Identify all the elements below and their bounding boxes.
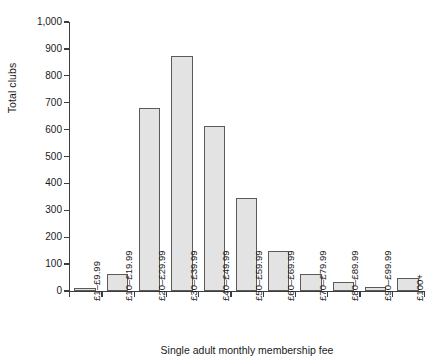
- x-axis-tick-label: £100+: [413, 217, 426, 301]
- y-axis-tick-label: 1,000: [2, 17, 62, 27]
- x-axis-tick: [166, 292, 167, 297]
- x-axis-tick: [263, 292, 264, 297]
- x-axis-tick: [424, 292, 425, 297]
- y-axis-tick-label: 200: [2, 232, 62, 242]
- x-axis-tick-label: £60–£69.99: [284, 217, 297, 301]
- y-axis-tick-label: 400: [2, 178, 62, 188]
- x-axis-tick-label: £40–£49.99: [219, 217, 232, 301]
- bar-chart: Total clubs 1,00090080070060050040030020…: [0, 0, 436, 364]
- bar: [333, 282, 354, 291]
- y-axis-line: [69, 22, 70, 292]
- x-axis-tick: [392, 292, 393, 297]
- bar: [204, 126, 225, 291]
- y-axis-tick-label: 500: [2, 152, 62, 162]
- y-axis-tick-label: 300: [2, 205, 62, 215]
- x-axis-tick-label: £20–£29.99: [155, 217, 168, 301]
- y-axis-title: Total clubs: [6, 38, 24, 138]
- bar: [107, 274, 128, 291]
- x-axis-tick: [134, 292, 135, 297]
- bar: [397, 278, 418, 291]
- x-axis-title: Single adult monthly membership fee: [69, 344, 425, 356]
- y-axis-tick-label: 100: [2, 259, 62, 269]
- x-axis-tick-label: £1–£9.99: [90, 217, 103, 301]
- x-axis-tick-labels: £1–£9.99£10–£19.99£20–£29.99£30–£39.99£4…: [0, 0, 436, 364]
- x-axis-tick: [198, 292, 199, 297]
- bar: [300, 274, 321, 291]
- x-axis-tick-label: £80–£89.99: [348, 217, 361, 301]
- x-axis-tick: [230, 292, 231, 297]
- y-axis-tick-label: 0: [2, 286, 62, 296]
- y-axis-tick-labels: 1,0009008007006005004003002001000: [0, 0, 436, 364]
- y-axis-ticks: [0, 0, 436, 364]
- x-axis-ticks: [0, 0, 436, 364]
- x-axis-tick: [101, 292, 102, 297]
- x-axis-tick: [327, 292, 328, 297]
- bar: [268, 251, 289, 291]
- bar: [171, 56, 192, 291]
- x-axis-tick-label: £50–£59.99: [252, 217, 265, 301]
- x-axis-tick-label: £90–£99.99: [381, 217, 394, 301]
- bar: [236, 198, 257, 291]
- x-axis-line: [69, 291, 425, 292]
- bar-series: [0, 0, 436, 364]
- bar: [139, 108, 160, 291]
- x-axis-tick-label: £30–£39.99: [187, 217, 200, 301]
- x-axis-tick-label: £10–£19.99: [122, 217, 135, 301]
- x-axis-tick: [69, 292, 70, 297]
- x-axis-tick-label: £70–£79.99: [316, 217, 329, 301]
- x-axis-tick: [359, 292, 360, 297]
- x-axis-tick: [295, 292, 296, 297]
